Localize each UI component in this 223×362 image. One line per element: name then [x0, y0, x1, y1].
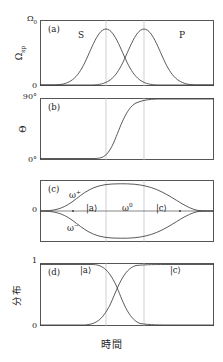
omega-minus-label: ω− [67, 224, 79, 233]
stirap-figure: (a) Ω0 0 Ωsp S P (b) 90° 0° Θ [0, 0, 223, 362]
omega-zero-label: ω0 [122, 204, 133, 213]
panel-b-plot [40, 98, 214, 160]
panel-d: (d) 1 0 分布 |a⟩ |c⟩ [40, 263, 214, 326]
panel-c: (c) 0 ω+ ω− ω0 |a⟩ |c⟩ [40, 180, 214, 242]
omega-symbol: Ω [27, 14, 34, 23]
omega-zero-superscript: 0 [129, 202, 133, 208]
state-c-label: |c⟩ [156, 204, 167, 213]
x-axis-label: 時間 [0, 336, 223, 351]
panel-b-ytick-top: 90° [23, 93, 37, 101]
panel-d-ytick-bottom: 0 [32, 322, 37, 330]
panel-a: (a) Ω0 0 Ωsp S P [40, 20, 214, 86]
curve-pump-pulse [40, 29, 214, 85]
panel-d-ytick-top: 1 [32, 257, 37, 265]
panel-d-letter: (d) [48, 268, 60, 277]
omega-zero-base: ω [122, 203, 129, 213]
panel-d-plot [40, 263, 214, 326]
panel-a-letter: (a) [48, 25, 60, 34]
omega-minus-base: ω [67, 223, 74, 233]
panel-a-ytick-bottom: 0 [32, 82, 37, 90]
omega-plus-base: ω [69, 190, 76, 200]
panel-b-letter: (b) [48, 103, 60, 112]
marker-state-c [179, 210, 181, 212]
panel-b: (b) 90° 0° Θ [40, 98, 214, 160]
state-a-label: |a⟩ [80, 266, 91, 275]
state-c-label: |c⟩ [170, 266, 181, 275]
panel-a-ytick-top: Ω0 [27, 15, 37, 23]
omega-minus-superscript: − [74, 222, 79, 228]
panel-d-ylabel: 分布 [12, 284, 22, 305]
marker-state-a [72, 210, 74, 212]
pump-pulse-label: P [179, 31, 185, 40]
curve-population-a [40, 265, 214, 326]
panel-b-ylabel: Θ [19, 125, 28, 132]
omega-plus-label: ω+ [69, 191, 81, 200]
panel-c-ytick-zero: 0 [32, 206, 37, 214]
panel-c-letter: (c) [48, 185, 59, 194]
state-a-label: |a⟩ [86, 204, 97, 213]
panel-b-ytick-bottom: 0° [28, 156, 37, 164]
panel-a-ylabel-base: Ω [14, 53, 24, 60]
stokes-pulse-label: S [78, 31, 84, 40]
omega-plus-superscript: + [76, 189, 81, 195]
panel-a-ylabel-sub: sp [19, 46, 26, 53]
panel-a-plot [40, 20, 214, 86]
curve-population-c [40, 265, 214, 326]
panel-a-ylabel: Ωsp [15, 46, 24, 61]
curve-mixing-angle [40, 99, 214, 159]
curve-stokes-pulse [40, 29, 214, 85]
omega-subscript: 0 [34, 19, 37, 25]
